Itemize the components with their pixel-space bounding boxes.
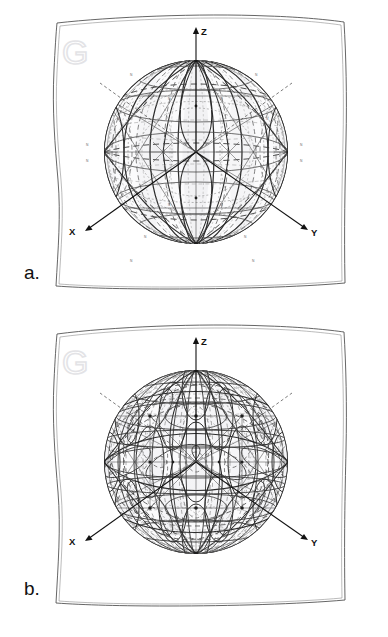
axis-label-x-b: X — [69, 536, 76, 547]
axis-label-y-b: Y — [311, 537, 318, 548]
svg-text:N: N — [86, 159, 89, 163]
panel-b: G — [53, 325, 346, 606]
watermark-g-a: G — [62, 33, 88, 71]
svg-text:N: N — [144, 235, 147, 239]
axis-label-y-a: Y — [311, 227, 318, 238]
svg-text:N: N — [130, 73, 133, 77]
figure-root: G — [0, 0, 388, 637]
panel-a: G — [53, 15, 346, 289]
svg-text:N: N — [252, 259, 255, 263]
panel-label-b: b. — [24, 578, 40, 600]
svg-text:N: N — [255, 73, 258, 77]
svg-text:N: N — [86, 143, 89, 147]
svg-text:N: N — [300, 159, 303, 163]
axis-label-z-a: Z — [201, 26, 207, 37]
axis-label-x-a: X — [69, 226, 76, 237]
svg-text:N: N — [244, 235, 247, 239]
axis-label-z-b: Z — [201, 336, 207, 347]
svg-text:N: N — [300, 143, 303, 147]
watermark-g-b: G — [62, 343, 88, 381]
panel-label-a: a. — [24, 262, 40, 284]
svg-text:N: N — [130, 259, 133, 263]
